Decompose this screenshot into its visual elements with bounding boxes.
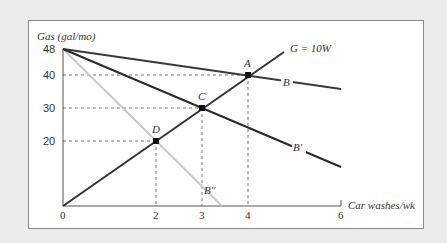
point-d bbox=[153, 138, 159, 144]
label-d: D bbox=[151, 123, 160, 135]
budget-line-b bbox=[63, 49, 341, 89]
x-tick-6: 6 bbox=[338, 209, 344, 221]
chart: Gas (gal/mo) 48 40 30 20 0 2 3 4 6 Car w… bbox=[0, 0, 447, 243]
label-g-10w: G = 10W bbox=[290, 42, 332, 54]
x-tick-2: 2 bbox=[153, 209, 159, 221]
y-tick-40: 40 bbox=[43, 69, 55, 81]
label-a: A bbox=[243, 57, 251, 69]
budget-line-b-double-prime bbox=[63, 49, 222, 206]
label-b-double-prime: B″ bbox=[204, 184, 216, 196]
y-tick-20: 20 bbox=[43, 135, 55, 147]
point-c bbox=[199, 105, 205, 111]
label-b-prime: B′ bbox=[293, 141, 303, 153]
x-tick-3: 3 bbox=[199, 209, 205, 221]
label-b: B bbox=[283, 76, 290, 88]
x-axis-label: Car washes/wk bbox=[348, 199, 416, 211]
x-tick-0: 0 bbox=[60, 209, 66, 221]
y-axis-label: Gas (gal/mo) bbox=[37, 30, 96, 43]
label-c: C bbox=[198, 90, 206, 102]
y-tick-48: 48 bbox=[43, 43, 55, 55]
y-tick-30: 30 bbox=[43, 102, 55, 114]
x-tick-4: 4 bbox=[245, 209, 251, 221]
point-a bbox=[245, 72, 251, 78]
